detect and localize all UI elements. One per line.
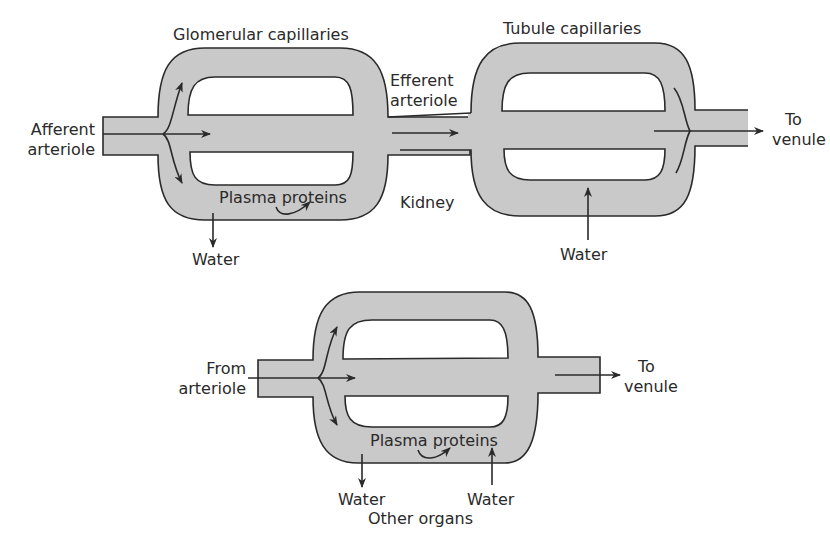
other-inner-top xyxy=(343,320,508,359)
other-venule-label-1: To xyxy=(638,357,655,377)
afferent-label-2: arteriole xyxy=(10,140,95,160)
other-proteins-label: Plasma proteins xyxy=(370,431,498,451)
other-organ-capillaries xyxy=(248,292,620,487)
other-inner-bottom xyxy=(345,396,508,427)
glomerular-water-label: Water xyxy=(192,250,239,270)
tubule-title: Tubule capillaries xyxy=(503,19,641,39)
venule-label-1: To xyxy=(785,110,802,130)
tubule-water-label: Water xyxy=(560,245,607,265)
glomerular-title: Glomerular capillaries xyxy=(173,25,349,45)
tubule-inner-bottom xyxy=(504,149,665,180)
from-arteriole-label-1: From xyxy=(160,359,246,379)
venule-label-2: venule xyxy=(772,130,826,150)
tubule-vessel xyxy=(468,43,748,216)
glomerular-inner-bottom xyxy=(190,152,353,185)
efferent-label-1: Efferent xyxy=(390,71,453,91)
glomerular-proteins-label: Plasma proteins xyxy=(219,188,347,208)
other-organs-label: Other organs xyxy=(368,509,473,529)
efferent-label-2: arteriole xyxy=(390,91,458,111)
from-arteriole-label-2: arteriole xyxy=(160,379,246,399)
kidney-label: Kidney xyxy=(400,193,455,213)
other-venule-label-2: venule xyxy=(624,377,678,397)
other-water-in-label: Water xyxy=(467,490,514,510)
afferent-label-1: Afferent xyxy=(10,120,95,140)
other-water-out-label: Water xyxy=(338,490,385,510)
glomerular-inner-top xyxy=(188,77,353,115)
tubule-inner-top xyxy=(502,73,665,111)
